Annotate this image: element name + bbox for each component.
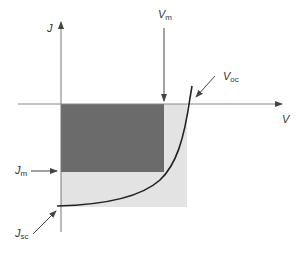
jsc-arrow <box>33 211 56 234</box>
jv-diagram: J V Vm Voc Jm Jsc <box>0 0 301 256</box>
jsc-label: Jsc <box>14 227 29 241</box>
x-axis-label: V <box>282 113 291 125</box>
vm-label: Vm <box>158 8 172 22</box>
voc-arrow <box>196 76 215 97</box>
voc-label: Voc <box>223 70 239 84</box>
y-axis-label: J <box>46 22 53 34</box>
max-power-region <box>61 104 164 172</box>
jm-label: Jm <box>14 164 28 178</box>
